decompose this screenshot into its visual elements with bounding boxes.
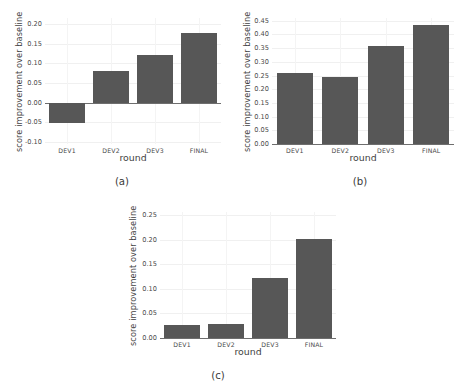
panel-caption-a: (a) [115, 176, 129, 187]
zero-baseline [272, 144, 454, 145]
y-axis-tick-label: 0.05 [142, 309, 157, 317]
y-axis-tick-label: 0.05 [254, 126, 269, 134]
bar [181, 33, 216, 103]
x-gridline [67, 18, 68, 144]
y-axis-tick-label: 0.15 [27, 40, 42, 48]
plot-area-a: 0.200.150.100.050.00-0.05-0.10DEV1DEV2DE… [45, 18, 221, 144]
bar [368, 46, 404, 144]
chart-a-area: score improvement over baseline 0.200.15… [0, 0, 230, 196]
x-axis-tick-label: DEV1 [173, 341, 190, 348]
y-axis-tick-label: 0.25 [254, 72, 269, 80]
bar [93, 71, 128, 103]
y-gridline [160, 215, 336, 216]
x-gridline [182, 212, 183, 338]
y-gridline [45, 24, 221, 25]
plot-area-c: 0.250.200.150.100.050.00DEV1DEV2DEV3FINA… [160, 212, 336, 338]
x-axis-title: round [349, 152, 376, 163]
bar [164, 325, 199, 338]
x-axis-tick-label: FINAL [305, 341, 323, 348]
y-axis-title: score improvement over baseline [128, 206, 138, 346]
bar [49, 103, 84, 123]
y-axis-title: score improvement over baseline [242, 12, 252, 152]
x-axis-tick-label: FINAL [190, 147, 208, 154]
x-axis-tick-label: DEV3 [146, 147, 163, 154]
y-axis-title: score improvement over baseline [14, 12, 24, 152]
y-axis-tick-label: 0.20 [27, 20, 42, 28]
x-axis-tick-label: DEV2 [102, 147, 119, 154]
zero-baseline [160, 338, 336, 339]
bar [322, 77, 358, 144]
y-axis-tick-label: -0.05 [25, 118, 42, 126]
bar [252, 278, 287, 338]
plot-area-b: 0.450.400.350.300.250.200.150.100.050.00… [272, 18, 454, 144]
y-axis-tick-label: 0.10 [254, 113, 269, 121]
x-axis-tick-label: DEV2 [332, 147, 349, 154]
x-axis-tick-label: DEV1 [286, 147, 303, 154]
y-axis-tick-label: 0.15 [254, 99, 269, 107]
panel-caption-b: (b) [353, 176, 367, 187]
x-axis-tick-label: DEV2 [217, 341, 234, 348]
y-axis-tick-label: 0.00 [254, 140, 269, 148]
panel-caption-c: (c) [211, 370, 225, 381]
y-axis-tick-label: 0.20 [142, 236, 157, 244]
chart-panel-c: score improvement over baseline 0.250.20… [110, 196, 355, 392]
y-axis-tick-label: 0.00 [142, 334, 157, 342]
y-axis-tick-label: 0.30 [254, 58, 269, 66]
bar [137, 55, 172, 103]
y-gridline [272, 21, 454, 22]
chart-panel-b: score improvement over baseline 0.450.40… [230, 0, 461, 196]
y-axis-tick-label: 0.40 [254, 30, 269, 38]
y-axis-tick-label: 0.10 [142, 285, 157, 293]
y-axis-tick-label: -0.10 [25, 138, 42, 146]
bar [413, 25, 449, 144]
y-axis-tick-label: 0.00 [27, 99, 42, 107]
x-axis-title: round [234, 346, 261, 357]
chart-c-area: score improvement over baseline 0.250.20… [110, 196, 355, 392]
y-axis-tick-label: 0.25 [142, 211, 157, 219]
y-axis-tick-label: 0.10 [27, 59, 42, 67]
y-gridline [45, 142, 221, 143]
x-axis-tick-label: DEV1 [58, 147, 75, 154]
y-axis-tick-label: 0.15 [142, 260, 157, 268]
y-axis-tick-label: 0.05 [27, 79, 42, 87]
x-axis-tick-label: DEV3 [377, 147, 394, 154]
figure-panel-group: score improvement over baseline 0.200.15… [0, 0, 461, 392]
x-axis-title: round [119, 152, 146, 163]
chart-b-area: score improvement over baseline 0.450.40… [230, 0, 461, 196]
bar [296, 239, 331, 338]
y-axis-tick-label: 0.20 [254, 85, 269, 93]
chart-panel-a: score improvement over baseline 0.200.15… [0, 0, 230, 196]
y-axis-tick-label: 0.35 [254, 44, 269, 52]
bar [208, 324, 243, 338]
x-axis-tick-label: DEV3 [261, 341, 278, 348]
y-axis-tick-label: 0.45 [254, 17, 269, 25]
bar [277, 73, 313, 144]
x-gridline [226, 212, 227, 338]
x-axis-tick-label: FINAL [422, 147, 440, 154]
